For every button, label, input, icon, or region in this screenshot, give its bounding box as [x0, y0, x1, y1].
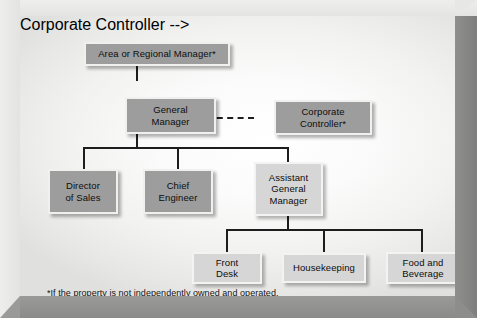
frame-bevel-top — [0, 0, 477, 16]
node-corporate-controller[interactable]: Corporate Controller* — [274, 100, 372, 135]
node-housekeeping[interactable]: Housekeeping — [282, 253, 366, 283]
diagram-canvas: Corporate Controller --> Area or Regiona… — [20, 16, 455, 296]
node-general-manager[interactable]: General Manager — [125, 97, 216, 134]
frame-bevel-left — [0, 0, 20, 318]
node-label-housekeeping: Housekeeping — [290, 262, 358, 274]
connector-bus-to-front-desk — [226, 229, 228, 252]
frame-bevel-bottom — [0, 296, 477, 318]
frame-miter-top-right — [455, 0, 477, 16]
node-front-desk[interactable]: Front Desk — [192, 252, 262, 284]
frame-miter-bottom-right — [455, 296, 477, 318]
org-chart-screenshot: Corporate Controller --> Area or Regiona… — [0, 0, 477, 318]
node-label-director-of-sales: Director of Sales — [62, 180, 103, 203]
node-label-front-desk: Front Desk — [213, 257, 242, 280]
frame-miter-bottom-left — [0, 296, 20, 318]
node-label-area-or-regional-manager: Area or Regional Manager* — [95, 48, 219, 60]
node-food-and-beverage[interactable]: Food and Beverage — [386, 252, 455, 284]
connector-bus-to-food-and-beverage — [421, 229, 423, 252]
frame-bevel-right — [455, 0, 477, 318]
node-assistant-general-manager[interactable]: Assistant General Manager — [254, 162, 323, 216]
node-chief-engineer[interactable]: Chief Engineer — [143, 169, 213, 214]
node-area-or-regional-manager[interactable]: Area or Regional Manager* — [84, 42, 230, 66]
connector-bus-to-chief-engineer — [177, 147, 179, 169]
connector-bus-to-assistant-general-manager — [287, 147, 289, 162]
connector-bus-to-housekeeping — [323, 229, 325, 252]
node-label-chief-engineer: Chief Engineer — [156, 180, 201, 203]
connector-assistant-general-manager-stub — [287, 215, 289, 230]
node-label-food-and-beverage: Food and Beverage — [399, 257, 446, 280]
node-label-general-manager: General Manager — [148, 104, 192, 127]
node-director-of-sales[interactable]: Director of Sales — [48, 169, 118, 214]
node-label-assistant-general-manager: Assistant General Manager — [266, 172, 311, 207]
node-label-corporate-controller: Corporate Controller* — [297, 106, 349, 129]
footnote-text: *If the property is not independently ow… — [47, 288, 279, 296]
connector-tier3-bus — [83, 147, 289, 149]
connector-bus-to-director-of-sales — [83, 147, 85, 169]
